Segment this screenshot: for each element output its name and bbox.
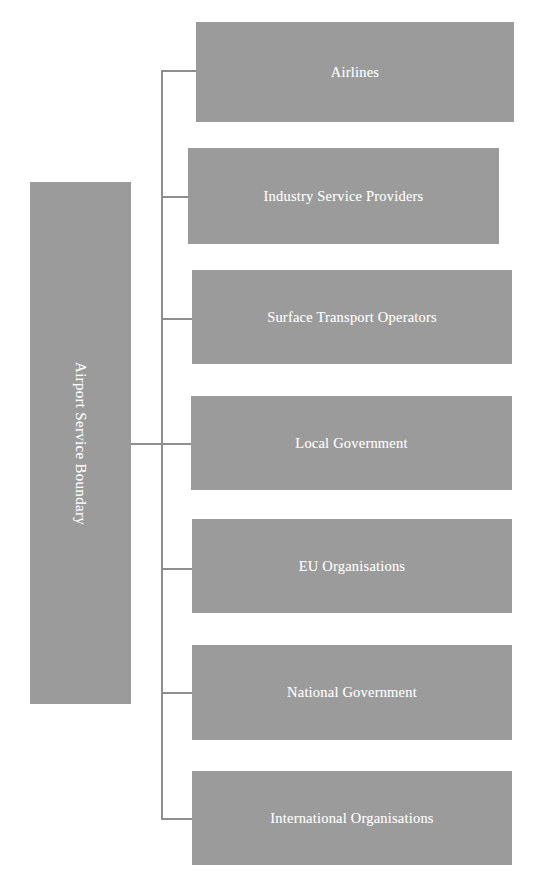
connector-root-stem — [131, 443, 163, 445]
connector-branch-5 — [161, 568, 194, 570]
root-node-airport-service-boundary[interactable]: Airport Service Boundary — [30, 182, 131, 704]
node-label-local-government: Local Government — [289, 435, 413, 452]
node-national-government[interactable]: National Government — [192, 645, 512, 740]
node-label-surface-transport-operators: Surface Transport Operators — [261, 309, 443, 326]
node-label-national-government: National Government — [281, 684, 423, 701]
node-industry-service-providers[interactable]: Industry Service Providers — [188, 148, 499, 244]
connector-branch-6 — [161, 692, 194, 694]
node-eu-organisations[interactable]: EU Organisations — [192, 519, 512, 613]
node-label-airlines: Airlines — [325, 64, 385, 81]
diagram-canvas: Airport Service Boundary Airlines Indust… — [0, 0, 539, 892]
node-surface-transport-operators[interactable]: Surface Transport Operators — [192, 270, 512, 364]
connector-branch-1 — [161, 70, 198, 72]
node-local-government[interactable]: Local Government — [191, 396, 512, 490]
connector-branch-3 — [161, 318, 194, 320]
connector-branch-2 — [161, 196, 190, 198]
connector-branch-4 — [161, 443, 193, 445]
node-label-international-organisations: International Organisations — [264, 810, 439, 827]
node-international-organisations[interactable]: International Organisations — [192, 771, 512, 865]
node-airlines[interactable]: Airlines — [196, 22, 514, 122]
node-label-industry-service-providers: Industry Service Providers — [258, 188, 430, 205]
root-node-label: Airport Service Boundary — [72, 362, 89, 525]
node-label-eu-organisations: EU Organisations — [293, 558, 411, 575]
connector-trunk-vertical — [161, 70, 163, 820]
connector-branch-7 — [161, 818, 194, 820]
